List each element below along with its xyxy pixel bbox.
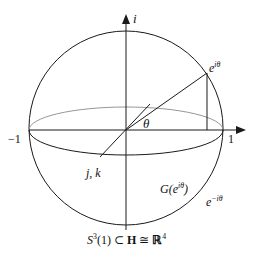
conjugate-label-exp: −iθ bbox=[211, 194, 222, 203]
great-circle-label-close: ) bbox=[184, 182, 188, 196]
sphere-diagram bbox=[0, 0, 256, 265]
real-axis-arrowhead bbox=[236, 126, 246, 134]
i-axis-label: i bbox=[133, 12, 137, 25]
jk-label: j, k bbox=[86, 167, 101, 179]
point-label-exp: iθ bbox=[214, 60, 220, 69]
caption-R: ℝ bbox=[152, 233, 162, 247]
left-label: −1 bbox=[8, 133, 21, 145]
i-axis-arrowhead bbox=[122, 14, 130, 24]
caption: S3(1) ⊂ H ≅ ℝ4 bbox=[87, 234, 166, 246]
angle-label: θ bbox=[143, 117, 149, 130]
caption-R-exp: 4 bbox=[162, 232, 166, 241]
caption-H: H bbox=[127, 233, 136, 247]
radius-line bbox=[126, 73, 207, 130]
point-label: eiθ bbox=[209, 62, 220, 74]
caption-part2: ≅ bbox=[136, 233, 152, 247]
great-circle-label: G(eiθ) bbox=[160, 183, 188, 195]
conjugate-label: e−iθ bbox=[206, 196, 223, 208]
great-circle-label-base: G(e bbox=[160, 182, 178, 196]
right-label: 1 bbox=[228, 133, 234, 145]
caption-part1: (1) ⊂ bbox=[97, 233, 127, 247]
